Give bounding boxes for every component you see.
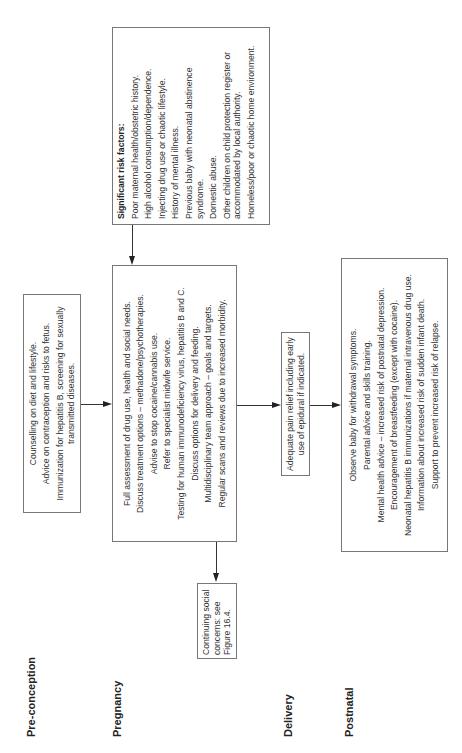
risk-factor-item: Previous baby with neonatal abstinence s… [184,33,205,219]
arrowhead-icon [129,256,135,265]
arrowhead-icon [272,402,281,408]
postnatal-item: Mental health advice – increased risk of… [376,264,387,546]
stage-label-preconception: Pre-conception [25,657,37,737]
risk-factor-item: Other children on child protection regis… [222,33,243,219]
preconception-item: Advice on contraception and risks to fet… [41,299,52,508]
postnatal-item: Parental advice and skills training. [362,264,373,546]
arrowhead-icon [103,401,112,407]
postnatal-item: Observe baby for withdrawal symptoms. [348,264,359,546]
risk-factor-item: Homeless/poor or chaotic home environmen… [246,33,257,219]
postnatal-item: Neonatal hepatitis B immunizations if ma… [403,264,414,546]
arrow-risk-to-pregnancy [132,225,133,257]
postnatal-item: Support to prevent increased risk of rel… [430,264,441,546]
pregnancy-item: Discuss options for delivery and feeding… [190,271,201,536]
pregnancy-item: Testing for human immunodeficiency virus… [176,271,187,536]
pregnancy-item: Full assessment of drug use, health and … [122,271,133,536]
arrow-pregnancy-to-delivery [237,405,272,406]
postnatal-item: Encouragement of breastfeeding (except w… [389,264,400,546]
pregnancy-item: Advise to stop cocaine/cannabis use. [149,271,160,536]
stage-label-postnatal: Postnatal [343,687,355,737]
pregnancy-item: Refer to specialist midwife service. [162,271,173,536]
preconception-item: Immunization for hepatitis B, screening … [55,299,76,508]
stage-label-pregnancy: Pregnancy [111,681,123,737]
pregnancy-item: Discuss treatment options – methadone/ps… [135,271,146,536]
postnatal-item: Information about increased risk of sudd… [416,264,427,546]
arrow-pregnancy-to-continuing [216,542,217,574]
continuing-social-concerns-text: Continuing social concerns: see Figure 1… [201,587,233,655]
risk-factor-item: High alcohol consumption/dependence. [143,33,154,219]
delivery-text: Adequate pain relief including early use… [285,336,306,472]
risk-factor-item: History of mental illness. [170,33,181,219]
pregnancy-item: Regular scans and reviews due to increas… [217,271,228,536]
arrowhead-icon [213,573,219,582]
risk-factors-title: Significant risk factors: [116,33,127,219]
pregnancy-item: Multidisciplinary team approach – goals … [203,271,214,536]
arrow-preconception-to-pregnancy [81,404,104,405]
arrow-delivery-to-postnatal [310,405,333,406]
risk-factor-item: Injecting drug use or chaotic lifestyle. [157,33,168,219]
risk-factor-item: Poor maternal health/obstetric history. [130,33,141,219]
risk-factor-item: Domestic abuse. [208,33,219,219]
arrowhead-icon [332,402,341,408]
preconception-item: Counselling on diet and lifestyle. [28,299,39,508]
stage-label-delivery: Delivery [282,694,294,737]
